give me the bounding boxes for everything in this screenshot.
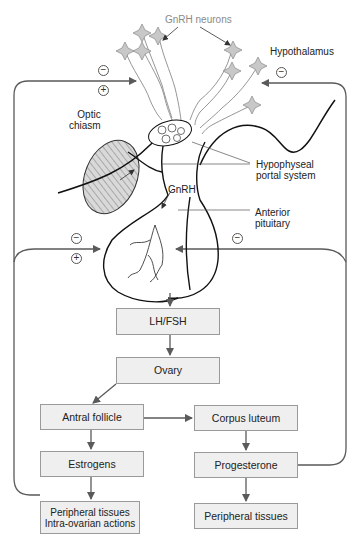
peripheral-left-line2: Intra-ovarian actions bbox=[45, 518, 136, 529]
box-estrogens: Estrogens bbox=[40, 451, 144, 477]
box-ovary: Ovary bbox=[116, 357, 220, 384]
stimulation-sign-pituitary-left: + bbox=[71, 253, 82, 264]
box-antral-follicle: Antral follicle bbox=[40, 404, 144, 430]
hypophyseal-label-line2: portal system bbox=[256, 170, 315, 181]
box-corpus-luteum-label: Corpus luteum bbox=[212, 413, 280, 424]
box-lh-fsh: LH/FSH bbox=[116, 308, 220, 335]
inhibition-sign-hypothalamus-right: − bbox=[276, 67, 287, 78]
box-peripheral-right-label: Peripheral tissues bbox=[204, 511, 287, 522]
peripheral-left-line1: Peripheral tissues bbox=[45, 507, 136, 518]
pituitary-feedback-loop bbox=[14, 249, 346, 262]
box-progesterone: Progesterone bbox=[194, 452, 298, 478]
box-peripheral-tissues-left: Peripheral tissues Intra-ovarian actions bbox=[40, 501, 140, 534]
box-peripheral-tissues-right: Peripheral tissues bbox=[194, 503, 298, 529]
anterior-pituitary-label: Anterior pituitary bbox=[255, 207, 290, 229]
hypothalamus-label: Hypothalamus bbox=[270, 46, 334, 57]
hypophyseal-label-line1: Hypophyseal bbox=[256, 159, 315, 170]
inhibition-sign-hypothalamus-left: − bbox=[98, 65, 109, 76]
neuron-label-pointers bbox=[163, 27, 230, 45]
optic-chiasm-label-line1: Optic bbox=[69, 109, 101, 120]
gnrh-neurons-label: GnRH neurons bbox=[165, 14, 232, 25]
inhibition-sign-pituitary-left: − bbox=[71, 233, 82, 244]
box-progesterone-label: Progesterone bbox=[214, 460, 277, 471]
optic-chiasm-label: Optic chiasm bbox=[69, 109, 101, 131]
stimulation-sign-hypothalamus-left: + bbox=[98, 85, 109, 96]
box-estrogens-label: Estrogens bbox=[68, 459, 115, 470]
box-peripheral-left-label: Peripheral tissues Intra-ovarian actions bbox=[45, 507, 136, 529]
optic-chiasm-label-line2: chiasm bbox=[69, 120, 101, 131]
box-corpus-luteum: Corpus luteum bbox=[194, 405, 298, 431]
anterior-label-line2: pituitary bbox=[255, 218, 290, 229]
gnrh-label: GnRH bbox=[168, 184, 196, 195]
anterior-label-line1: Anterior bbox=[255, 207, 290, 218]
hypophyseal-portal-label: Hypophyseal portal system bbox=[256, 159, 315, 181]
hypothalamic-feedback-loop bbox=[14, 81, 346, 495]
neuron-cell-bodies bbox=[116, 24, 267, 114]
box-ovary-label: Ovary bbox=[154, 365, 182, 376]
portal-capillary-plexus bbox=[146, 116, 195, 151]
box-lh-fsh-label: LH/FSH bbox=[149, 316, 186, 327]
inhibition-sign-pituitary-right: − bbox=[232, 233, 243, 244]
box-antral-follicle-label: Antral follicle bbox=[62, 412, 122, 423]
pituitary-capillaries bbox=[128, 225, 163, 282]
